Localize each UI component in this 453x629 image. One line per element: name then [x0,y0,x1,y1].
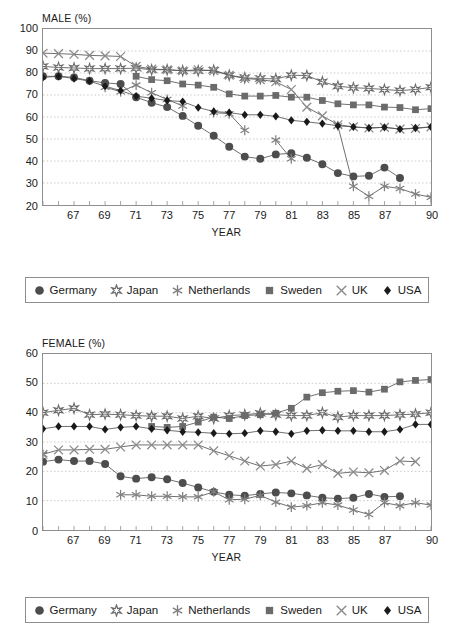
x-axis-tick-label: 90 [426,535,438,546]
diamond-marker-icon [381,284,394,297]
legend-item-uk[interactable]: UK [335,284,368,297]
y-axis-tick-label: 0 [2,526,38,537]
chart-male-axis-title: MALE (%) [42,12,91,24]
x-axis-tick-label: 69 [98,210,110,221]
y-axis-tick-label: 100 [2,23,38,34]
x-axis-tick-label: 85 [348,535,360,546]
x-axis-tick-label: 77 [223,535,235,546]
star6-marker-icon [110,284,123,297]
x-axis-tick-label: 90 [426,210,438,221]
x-axis-tick-label: 73 [161,535,173,546]
legend-item-sweden[interactable]: Sweden [263,284,322,297]
x-axis-tick-label: 85 [348,210,360,221]
series-japan [43,403,431,424]
chart-male-y-axis: 1009080706050403020 [0,28,38,206]
chart-female-plot-area [42,353,432,531]
chart-male: MALE (%) 1009080706050403020 67697173757… [0,10,453,255]
y-axis-tick-label: 80 [2,67,38,78]
chart-female-axis-title: FEMALE (%) [42,337,105,349]
y-axis-tick-label: 40 [2,407,38,418]
xcross-marker-icon [335,284,348,297]
y-axis-tick-label: 10 [2,496,38,507]
x-axis-tick-label: 67 [67,210,79,221]
star6-marker-icon [110,604,123,617]
legend-label: Japan [127,604,158,616]
x-axis-tick-label: 81 [285,535,297,546]
x-axis-tick-label: 79 [254,535,266,546]
legend-label: Japan [127,284,158,296]
y-axis-tick-label: 30 [2,178,38,189]
y-axis-tick-label: 50 [2,377,38,388]
legend-item-germany[interactable]: Germany [33,284,97,297]
chart-page: MALE (%) 1009080706050403020 67697173757… [0,0,453,629]
chart-female-series-canvas [43,354,431,530]
circle-marker-icon [33,604,46,617]
chart-female-x-axis-label: YEAR [0,551,453,563]
series-germany [43,456,404,503]
x-axis-tick-label: 87 [379,210,391,221]
xcross-marker-icon [335,604,348,617]
legend-item-sweden[interactable]: Sweden [263,604,322,617]
legend-item-japan[interactable]: Japan [110,284,158,297]
legend-label: Germany [50,284,97,296]
chart-male-plot-area [42,28,432,206]
chart-female: FEMALE (%) 6050403020100 676971737577798… [0,335,453,580]
legend-label: Netherlands [188,604,250,616]
legend-male: GermanyJapanNetherlandsSwedenUKUSA [25,277,429,303]
legend-item-usa[interactable]: USA [381,284,422,297]
series-sweden [148,376,431,431]
x-axis-tick-label: 71 [129,210,141,221]
legend-label: USA [398,284,422,296]
x-axis-tick-label: 77 [223,210,235,221]
x-axis-tick-label: 69 [98,535,110,546]
legend-item-uk[interactable]: UK [335,604,368,617]
y-axis-tick-label: 60 [2,348,38,359]
legend-item-netherlands[interactable]: Netherlands [171,284,250,297]
legend-label: UK [352,284,368,296]
chart-female-x-axis: 676971737577798183858790 [42,533,432,549]
y-axis-tick-label: 70 [2,89,38,100]
y-axis-tick-label: 20 [2,466,38,477]
legend-label: Sweden [280,284,322,296]
diamond-marker-icon [381,604,394,617]
square-marker-icon [263,284,276,297]
x-axis-tick-label: 75 [192,535,204,546]
legend-item-japan[interactable]: Japan [110,604,158,617]
x-axis-tick-label: 81 [285,210,297,221]
series-netherlands [43,449,431,519]
x-axis-tick-label: 73 [161,210,173,221]
x-axis-tick-label: 71 [129,535,141,546]
legend-label: USA [398,604,422,616]
circle-marker-icon [33,284,46,297]
legend-female: GermanyJapanNetherlandsSwedenUKUSA [25,597,429,623]
legend-label: Sweden [280,604,322,616]
x-axis-tick-label: 83 [317,535,329,546]
x-axis-tick-label: 67 [67,535,79,546]
y-axis-tick-label: 40 [2,156,38,167]
series-sweden [133,73,431,113]
legend-label: Germany [50,604,97,616]
legend-label: UK [352,604,368,616]
y-axis-tick-label: 50 [2,134,38,145]
series-uk [43,441,420,478]
y-axis-tick-label: 90 [2,45,38,56]
chart-male-series-canvas [43,29,431,205]
legend-label: Netherlands [188,284,250,296]
y-axis-tick-label: 20 [2,201,38,212]
square-marker-icon [263,604,276,617]
x-axis-tick-label: 75 [192,210,204,221]
chart-male-x-axis: 676971737577798183858790 [42,208,432,224]
series-japan [43,61,431,95]
asterisk-marker-icon [171,284,184,297]
chart-female-y-axis: 6050403020100 [0,353,38,531]
x-axis-tick-label: 83 [317,210,329,221]
asterisk-marker-icon [171,604,184,617]
legend-item-netherlands[interactable]: Netherlands [171,604,250,617]
x-axis-tick-label: 79 [254,210,266,221]
chart-male-x-axis-label: YEAR [0,226,453,238]
y-axis-tick-label: 60 [2,112,38,123]
series-usa [43,420,431,438]
legend-item-germany[interactable]: Germany [33,604,97,617]
legend-item-usa[interactable]: USA [381,604,422,617]
y-axis-tick-label: 30 [2,437,38,448]
